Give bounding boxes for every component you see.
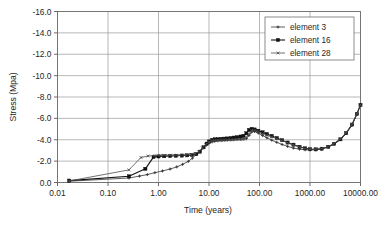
x-tick-label: 0.10 [100, 188, 117, 198]
x-tick-label: 10000.00 [343, 188, 378, 198]
chart-legend: element 3element 16element 28 [265, 17, 354, 60]
y-tick-label: -10.0 [32, 71, 51, 81]
data-point-marker [144, 167, 147, 170]
y-tick-label: -14.0 [32, 28, 51, 38]
y-tick-label: -2.0 [37, 156, 52, 166]
legend-item-label: element 3 [290, 23, 326, 32]
y-tick-label: 0.0 [40, 178, 52, 188]
legend-swatch-marker [276, 38, 279, 41]
legend-item-label: element 16 [290, 36, 331, 45]
x-axis-title: Time (years) [184, 205, 232, 215]
data-point-marker [127, 175, 130, 178]
x-tick-label: 1000.00 [295, 188, 326, 198]
y-tick-label: -16.0 [32, 7, 51, 17]
y-tick-label: -12.0 [32, 49, 51, 59]
stress-vs-time-chart: -16.0-14.0-12.0-10.0-8.0-6.0-4.0-2.00.0 … [0, 0, 392, 228]
x-tick-label: 1.00 [150, 188, 167, 198]
x-tick-label: 0.01 [49, 188, 66, 198]
y-tick-label: -8.0 [37, 92, 52, 102]
y-tick-label: -6.0 [37, 113, 52, 123]
chart-canvas: -16.0-14.0-12.0-10.0-8.0-6.0-4.0-2.00.0 … [0, 0, 392, 228]
data-point-marker [180, 154, 183, 157]
y-axis-title: Stress (Mpa) [8, 72, 18, 121]
data-point-marker [245, 132, 248, 135]
x-tick-label: 100.00 [247, 188, 273, 198]
x-tick-label: 10.00 [199, 188, 220, 198]
legend-item-label: element 28 [290, 49, 331, 58]
y-tick-label: -4.0 [37, 135, 52, 145]
data-point-marker [242, 134, 245, 137]
